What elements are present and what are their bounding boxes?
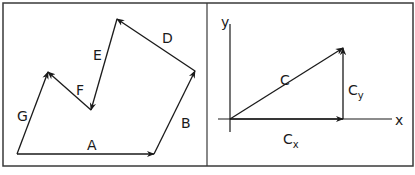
vector-b-arrow [154,71,195,154]
vector-b-label: B [181,115,191,131]
vector-cy-subscript: y [358,90,364,101]
vector-a-label: A [87,137,97,153]
x-axis-label: x [395,112,403,128]
vector-cy-label: Cy [348,82,364,101]
vector-diagram-svg: ABDEFG y x CCxCy [0,0,415,175]
vector-d-arrow [117,19,195,71]
vector-cx-label: Cx [283,131,299,150]
vector-d-label: D [162,30,173,46]
vector-cx-subscript: x [293,139,299,150]
right-panel: y x CCxCy [218,14,403,150]
vector-figure: ABDEFG y x CCxCy [0,0,415,175]
vector-c-label: C [280,72,290,88]
vector-f-arrow [48,72,91,110]
vector-g-label: G [17,108,28,124]
vector-f-label: F [76,82,84,98]
y-axis-label: y [221,14,229,30]
vector-e-arrow [91,19,117,110]
left-panel: ABDEFG [17,19,195,154]
vector-e-label: E [93,47,102,63]
